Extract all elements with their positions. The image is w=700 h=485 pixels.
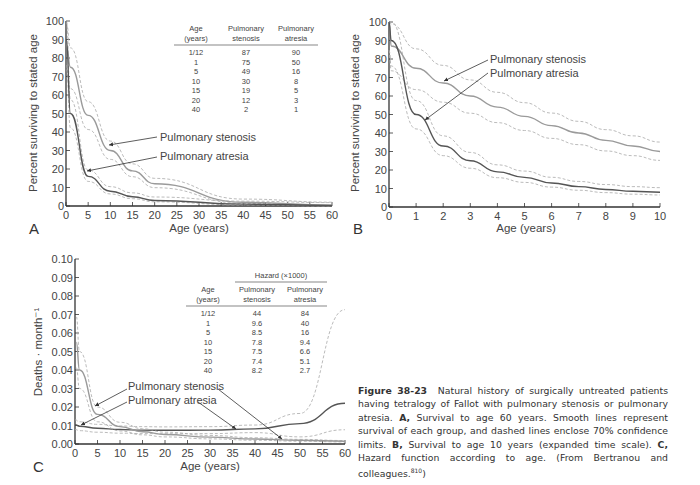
table-cell: 16 (292, 67, 300, 76)
table-cell: 8.2 (252, 366, 262, 375)
x-tick-label: 15 (126, 209, 138, 221)
x-tick-label: 25 (171, 209, 183, 221)
y-tick-label: 40 (52, 126, 64, 138)
panel-b-stenosis-label: Pulmonary stenosis (490, 53, 586, 65)
y-tick-label: 50 (52, 108, 64, 120)
panel-a-xlabel: Age (years) (169, 222, 229, 234)
table-cell: 87 (242, 48, 250, 57)
x-tick-label: 50 (294, 447, 306, 459)
panel-c-stenosis-arrow-left (95, 389, 127, 406)
table-cell: 20 (204, 357, 212, 366)
y-tick-label: 0.01 (52, 420, 73, 432)
x-tick-label: 0 (63, 209, 69, 221)
caption-close: ) (422, 469, 426, 480)
table-cell: 10 (192, 77, 200, 86)
table-cell: 84 (301, 309, 309, 318)
table-cell: 40 (204, 366, 212, 375)
table-cell: 7.8 (252, 338, 262, 347)
x-tick-label: 2 (440, 210, 446, 222)
table-cell: 20 (192, 96, 200, 105)
y-tick-label: 90 (375, 35, 387, 47)
x-tick-label: 30 (193, 209, 205, 221)
table-header: Pulmonary (228, 24, 264, 33)
panel-b: 0102030405060708090100012345678910 Perce… (349, 16, 666, 237)
x-tick-label: 1 (413, 210, 419, 222)
table-cell: 8 (294, 77, 298, 86)
x-tick-label: 35 (226, 447, 238, 459)
table-header: atresia (294, 295, 317, 304)
y-tick-label: 20 (375, 164, 387, 176)
table-cell: 40 (192, 105, 200, 114)
x-tick-label: 15 (136, 447, 148, 459)
y-tick-label: 80 (375, 53, 387, 65)
x-tick-label: 25 (181, 447, 193, 459)
caption-b-label: B, (392, 439, 403, 450)
table-cell: 8.5 (252, 328, 262, 337)
panel-b-curves (389, 22, 660, 195)
x-tick-label: 0 (72, 447, 78, 459)
caption-b-text: Survival to age 10 years (expanded time … (408, 439, 651, 450)
panel-a-atresia-label: Pulmonary atresia (160, 150, 250, 162)
panel-c-stenosis-label: Pulmonary stenosis (128, 380, 224, 392)
y-tick-label: 0.04 (52, 364, 73, 376)
table-cell: 2 (244, 105, 248, 114)
x-tick-label: 30 (204, 447, 216, 459)
curve-pulmonary-atresia (389, 22, 660, 192)
x-tick-label: 10 (654, 210, 666, 222)
table-cell: 15 (204, 347, 212, 356)
x-tick-label: 20 (159, 447, 171, 459)
panel-a-table: Age(years)PulmonarystenosisPulmonaryatre… (174, 24, 318, 114)
table-cell: 30 (242, 77, 250, 86)
x-tick-label: 7 (576, 210, 582, 222)
caption-c-label: C, (658, 439, 668, 450)
panel-b-ylabel: Percent surviving to stated age (349, 34, 361, 192)
panel-c-atresia-arrow-left (81, 402, 127, 425)
x-tick-label: 3 (467, 210, 473, 222)
x-tick-label: 0 (386, 210, 392, 222)
table-header: Pulmonary (287, 285, 323, 294)
x-tick-label: 5 (521, 210, 527, 222)
table-cell: 1/12 (201, 309, 216, 318)
table-cell: 5.1 (300, 357, 310, 366)
table-cell: 16 (301, 328, 309, 337)
panel-b-letter: B (353, 220, 363, 237)
table-cell: 49 (242, 67, 250, 76)
caption-ref: 810 (411, 467, 422, 474)
curve-pulmonary-stenosis (389, 22, 660, 152)
panel-a-letter: A (29, 220, 39, 237)
panel-c-xlabel: Age (years) (180, 460, 240, 472)
table-header: Pulmonary (239, 285, 275, 294)
panel-b-atresia-label: Pulmonary atresia (490, 67, 580, 79)
y-tick-label: 60 (375, 90, 387, 102)
caption-label: Figure 38-23 (358, 385, 427, 396)
confidence-limit-upper (389, 22, 660, 142)
x-tick-label: 55 (316, 447, 328, 459)
y-tick-label: 90 (52, 34, 64, 46)
y-tick-label: 100 (369, 16, 387, 28)
y-tick-label: 0.05 (52, 346, 73, 358)
table-cell: 1 (194, 58, 198, 67)
panel-a-stenosis-label: Pulmonary stenosis (160, 131, 256, 143)
table-cell: 5 (194, 67, 198, 76)
x-tick-label: 10 (104, 209, 116, 221)
table-cell: 44 (253, 309, 261, 318)
x-tick-label: 60 (326, 209, 338, 221)
table-header: Age (189, 24, 202, 33)
x-tick-label: 5 (85, 209, 91, 221)
panel-c-atresia-label: Pulmonary atresia (128, 394, 218, 406)
table-cell: 3 (294, 96, 298, 105)
x-tick-label: 9 (630, 210, 636, 222)
y-tick-label: 80 (52, 52, 64, 64)
table-cell: 7.5 (252, 347, 262, 356)
table-cell: 1 (206, 319, 210, 328)
x-tick-label: 10 (114, 447, 126, 459)
x-tick-label: 50 (282, 209, 294, 221)
table-cell: 9.4 (300, 338, 310, 347)
y-tick-label: 70 (375, 72, 387, 84)
panel-c-stenosis-arrow-right (218, 389, 282, 439)
x-tick-label: 40 (249, 447, 261, 459)
table-header: Pulmonary (278, 24, 314, 33)
table-header: (years) (196, 295, 220, 304)
y-tick-label: 0.02 (52, 401, 73, 413)
x-tick-label: 45 (271, 447, 283, 459)
